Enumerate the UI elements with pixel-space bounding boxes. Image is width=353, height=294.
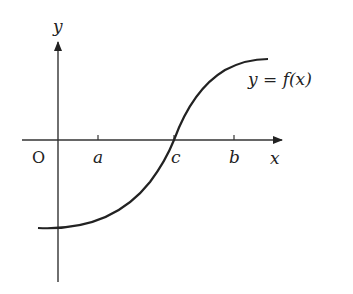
tick-label-b: b — [229, 147, 240, 167]
y-axis-label: y — [52, 16, 63, 36]
function-graph: y x O a c b y = f(x) — [0, 0, 353, 294]
origin-label: O — [32, 148, 45, 167]
tick-label-a: a — [93, 147, 103, 167]
x-axis-label: x — [270, 148, 280, 168]
tick-label-c: c — [171, 147, 181, 167]
curve-label: y = f(x) — [247, 69, 312, 89]
function-curve — [38, 59, 268, 228]
